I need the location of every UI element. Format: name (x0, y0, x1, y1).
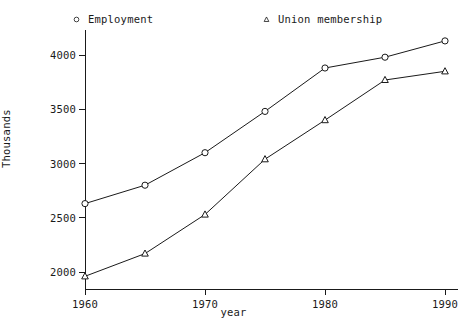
y-tick-label: 4000 (30, 50, 76, 61)
plot-area: 200025003000350040001960197019801990 (0, 0, 467, 329)
y-tick-label: 3000 (30, 158, 76, 169)
y-tick-label: 2000 (30, 267, 76, 278)
series-union-membership (82, 68, 449, 279)
y-axis-title: Thousands (0, 109, 12, 168)
y-tick-label: 3500 (30, 104, 76, 115)
line-chart: Employment Union membership 200025003000… (0, 0, 467, 329)
y-tick-label: 2500 (30, 213, 76, 224)
x-axis-title: year (0, 306, 467, 318)
series-employment (82, 38, 448, 207)
